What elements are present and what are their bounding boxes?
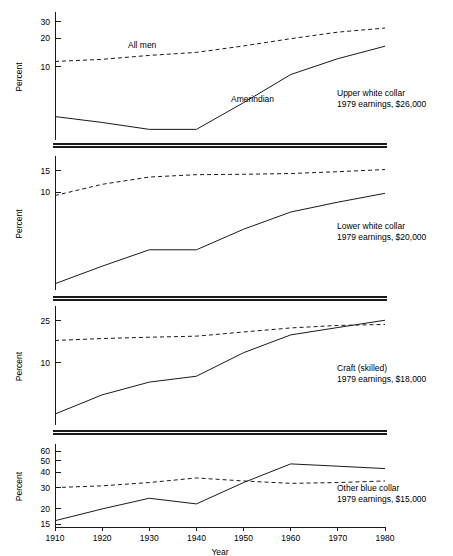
xtick-label-1940: 1940 bbox=[187, 533, 206, 543]
ytick-label-3-50: 50 bbox=[41, 456, 51, 466]
series-amerindian-panel-2 bbox=[55, 320, 385, 414]
panel-annotation-title-2: Craft (skilled) bbox=[337, 363, 387, 373]
xtick-label-1930: 1930 bbox=[140, 533, 159, 543]
xtick-label-1950: 1950 bbox=[234, 533, 253, 543]
ytick-label-0-30: 30 bbox=[41, 17, 51, 27]
panel-annotation-title-3: Other blue collar bbox=[337, 483, 400, 493]
xtick-label-1980: 1980 bbox=[376, 533, 395, 543]
series-label-all-men: All men bbox=[128, 40, 157, 50]
ytick-label-0-10: 10 bbox=[41, 62, 51, 72]
y-axis-label-3: Percent bbox=[14, 471, 24, 501]
x-axis-label: Year bbox=[211, 547, 228, 556]
series-all-men-panel-0 bbox=[55, 28, 385, 61]
chart-figure: 102030PercentUpper white collar1979 earn… bbox=[0, 0, 453, 556]
series-amerindian-panel-3 bbox=[55, 464, 385, 521]
series-all-men-panel-2 bbox=[55, 324, 385, 340]
ytick-label-3-60: 60 bbox=[41, 446, 51, 456]
ytick-label-1-10: 10 bbox=[41, 187, 51, 197]
ytick-label-3-40: 40 bbox=[41, 467, 51, 477]
ytick-label-0-20: 20 bbox=[41, 33, 51, 43]
panel-annotation-earnings-1: 1979 earnings, $20,000 bbox=[337, 232, 427, 242]
panel-annotation-earnings-3: 1979 earnings, $15,000 bbox=[337, 494, 427, 504]
xtick-label-1910: 1910 bbox=[46, 533, 65, 543]
ytick-label-2-25: 25 bbox=[41, 316, 51, 326]
ytick-label-1-15: 15 bbox=[41, 166, 51, 176]
y-axis-label-1: Percent bbox=[14, 209, 24, 239]
ytick-label-3-15: 15 bbox=[41, 519, 51, 529]
ytick-label-3-20: 20 bbox=[41, 504, 51, 514]
xtick-label-1970: 1970 bbox=[328, 533, 347, 543]
xtick-label-1920: 1920 bbox=[93, 533, 112, 543]
ytick-label-3-30: 30 bbox=[41, 483, 51, 493]
series-amerindian-panel-1 bbox=[55, 193, 385, 283]
y-axis-label-2: Percent bbox=[14, 351, 24, 381]
y-axis-label-0: Percent bbox=[14, 62, 24, 92]
xtick-label-1960: 1960 bbox=[281, 533, 300, 543]
panel-annotation-earnings-2: 1979 earnings, $18,000 bbox=[337, 374, 427, 384]
series-all-men-panel-1 bbox=[55, 170, 385, 196]
ytick-label-2-10: 10 bbox=[41, 358, 51, 368]
panel-annotation-title-0: Upper white collar bbox=[337, 88, 405, 98]
panel-annotation-earnings-0: 1979 earnings, $26,000 bbox=[337, 99, 427, 109]
chart-canvas: 102030PercentUpper white collar1979 earn… bbox=[0, 0, 453, 556]
series-label-amerindian: Amerindian bbox=[231, 94, 274, 104]
panel-annotation-title-1: Lower white collar bbox=[337, 221, 405, 231]
series-all-men-panel-3 bbox=[55, 478, 385, 488]
